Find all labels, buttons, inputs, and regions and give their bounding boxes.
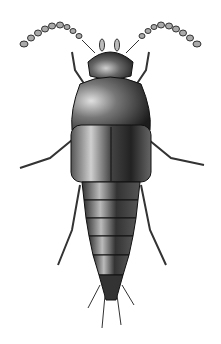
right-palp	[115, 39, 120, 51]
pronotum	[72, 77, 151, 130]
abdomen	[82, 182, 140, 300]
beetle-drawing	[0, 0, 221, 344]
left-palp	[100, 39, 105, 51]
left-antenna	[20, 22, 95, 53]
beetle-illustration	[0, 0, 221, 344]
head	[88, 52, 133, 79]
right-antenna	[126, 22, 201, 53]
